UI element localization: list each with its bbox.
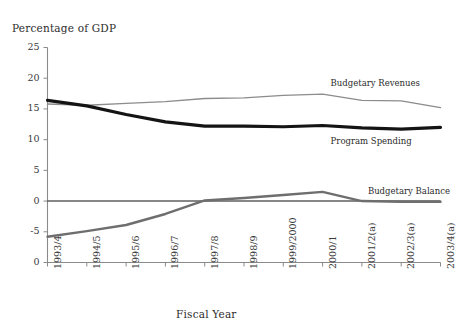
x-axis-tick-label: 1993/4 [52, 235, 63, 268]
x-axis-tick-label: 2002/3(a) [405, 222, 416, 269]
y-axis-tick-label: 10 [14, 133, 40, 144]
x-axis-tick-label: 2003/4(a) [445, 222, 456, 269]
x-axis-tick-label: 1994/5 [91, 235, 102, 268]
x-axis-tick-label: 1998/9 [248, 235, 259, 268]
y-axis-tick-label: 20 [14, 72, 40, 83]
plot-area [0, 0, 466, 332]
y-axis-tick-label: 15 [14, 102, 40, 113]
chart-figure: Percentage of GDP Fiscal Year 2520151050… [0, 0, 466, 332]
series-label-budgetary-balance: Budgetary Balance [368, 186, 450, 196]
x-axis-tick-label: 1996/7 [169, 235, 180, 268]
x-axis-tick-label: 1999/2000 [287, 217, 298, 269]
y-axis-tick-label: 25 [14, 41, 40, 52]
x-axis-tick-label: 2000/1 [327, 235, 338, 268]
x-axis-tick-label: 1997/8 [209, 235, 220, 268]
series-line [48, 192, 441, 237]
y-axis-tick-label: 0 [14, 195, 40, 206]
series-label-budgetary-revenues: Budgetary Revenues [331, 78, 420, 88]
series-label-program-spending: Program Spending [331, 136, 412, 146]
x-axis-tick-label: 2001/2(a) [366, 222, 377, 269]
series-line [48, 94, 441, 108]
y-axis-tick-label: 5 [14, 164, 40, 175]
y-axis-tick-label: 0 [14, 256, 40, 267]
y-axis-tick-label: -5 [14, 225, 40, 236]
x-axis-tick-label: 1995/6 [130, 235, 141, 268]
